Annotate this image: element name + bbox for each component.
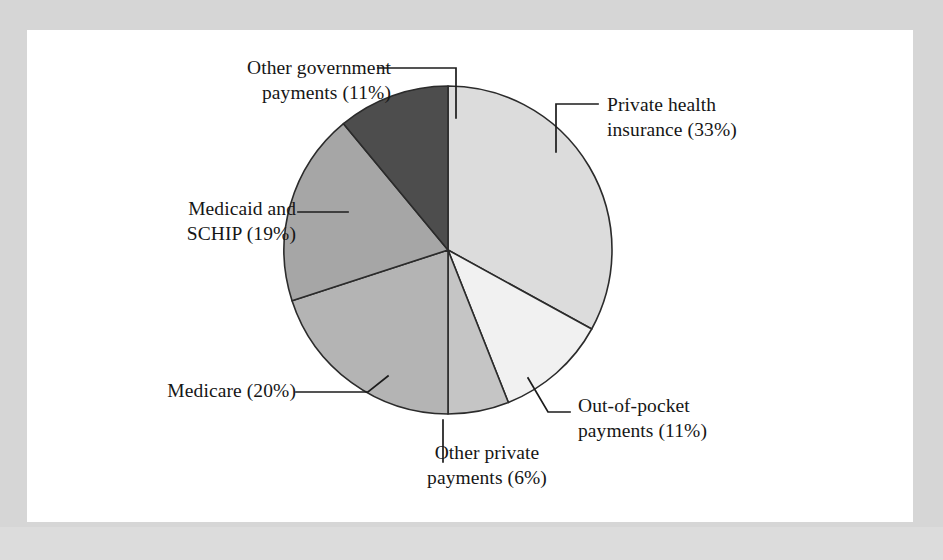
pie-slice-group [284,86,612,414]
pie-label-out-of-pocket-payments: Out-of-pocket payments (11%) [578,393,808,443]
chart-page: Other government payments (11%) Private … [0,0,943,560]
pie-chart-figure: Other government payments (11%) Private … [0,0,943,560]
pie-label-private-health-insurance: Private health insurance (33%) [607,92,867,142]
pie-label-medicare: Medicare (20%) [110,378,296,403]
pie-label-other-government-payments: Other government payments (11%) [159,55,391,105]
pie-label-other-private-payments: Other private payments (6%) [392,440,582,490]
pie-label-medicaid-and-schip: Medicaid and SCHIP (19%) [128,196,296,246]
